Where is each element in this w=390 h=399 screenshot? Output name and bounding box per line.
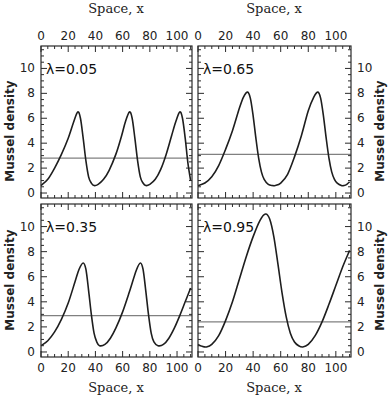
- x-tick-label: 40: [245, 29, 260, 43]
- x-tick-label: 100: [166, 361, 189, 375]
- y-tick-label: 4: [357, 295, 365, 309]
- bottom-left-y-axis-title: Mussel density: [3, 229, 17, 330]
- x-tick-label: 100: [166, 29, 189, 43]
- x-tick-label: 0: [194, 29, 202, 43]
- lambda-label: λ=0.95: [203, 219, 254, 235]
- y-tick-label: 8: [27, 245, 35, 259]
- x-tick-label: 60: [115, 361, 130, 375]
- y-tick-label: 2: [357, 161, 365, 175]
- x-tick-label: 100: [324, 361, 347, 375]
- bottom-left-x-axis-title: Space, x: [88, 380, 144, 395]
- y-tick-label: 10: [20, 220, 35, 234]
- x-tick-label: 20: [61, 29, 76, 43]
- bottom-right-y-axis-title: Mussel density: [373, 229, 387, 330]
- x-tick-label: 0: [37, 361, 45, 375]
- figure: 0204060801000246810λ=0.05020406080100024…: [0, 0, 390, 399]
- lambda-label: λ=0.35: [46, 219, 97, 235]
- x-tick-label: 80: [142, 29, 157, 43]
- y-tick-label: 2: [357, 320, 365, 334]
- x-tick-label: 0: [37, 29, 45, 43]
- top-left-panel: 0204060801000246810λ=0.05: [20, 29, 192, 200]
- y-tick-label: 2: [27, 161, 35, 175]
- x-tick-label: 80: [301, 361, 316, 375]
- top-right-x-axis-title: Space, x: [246, 1, 302, 16]
- y-tick-label: 0: [27, 186, 35, 200]
- lambda-label: λ=0.05: [46, 61, 97, 77]
- y-tick-label: 2: [27, 320, 35, 334]
- y-tick-label: 6: [357, 111, 365, 125]
- y-tick-label: 10: [357, 61, 372, 75]
- x-tick-label: 20: [61, 361, 76, 375]
- y-tick-label: 0: [27, 345, 35, 359]
- y-tick-label: 10: [20, 61, 35, 75]
- y-tick-label: 8: [357, 86, 365, 100]
- y-tick-label: 6: [27, 111, 35, 125]
- x-tick-label: 40: [88, 29, 103, 43]
- y-tick-label: 0: [357, 186, 365, 200]
- x-tick-label: 60: [273, 361, 288, 375]
- x-tick-label: 40: [245, 361, 260, 375]
- x-tick-label: 100: [324, 29, 347, 43]
- x-tick-label: 60: [115, 29, 130, 43]
- x-tick-label: 60: [273, 29, 288, 43]
- y-tick-label: 4: [27, 295, 35, 309]
- y-tick-label: 4: [27, 136, 35, 150]
- density-curve: [198, 92, 350, 186]
- x-tick-label: 80: [142, 361, 157, 375]
- density-curve: [41, 112, 191, 186]
- x-tick-label: 0: [194, 361, 202, 375]
- y-tick-label: 4: [357, 136, 365, 150]
- y-tick-label: 0: [357, 345, 365, 359]
- bottom-right-panel: 0204060801000246810λ=0.95: [194, 204, 372, 375]
- top-left-x-axis-title: Space, x: [88, 1, 144, 16]
- bottom-left-panel: 0204060801000246810λ=0.35: [20, 204, 192, 375]
- top-left-y-axis-title: Mussel density: [3, 80, 17, 181]
- x-tick-label: 80: [301, 29, 316, 43]
- x-tick-label: 20: [218, 29, 233, 43]
- y-tick-label: 8: [357, 245, 365, 259]
- y-tick-label: 10: [357, 220, 372, 234]
- y-tick-label: 8: [27, 86, 35, 100]
- x-tick-label: 40: [88, 361, 103, 375]
- x-tick-label: 20: [218, 361, 233, 375]
- y-tick-label: 6: [357, 270, 365, 284]
- bottom-right-x-axis-title: Space, x: [246, 380, 302, 395]
- density-curve: [41, 263, 191, 346]
- top-right-y-axis-title: Mussel density: [373, 80, 387, 181]
- lambda-label: λ=0.65: [203, 61, 254, 77]
- y-tick-label: 6: [27, 270, 35, 284]
- top-right-panel: 0204060801000246810λ=0.65: [194, 29, 372, 200]
